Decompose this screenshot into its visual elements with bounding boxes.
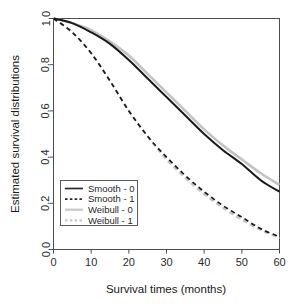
x-tick-label: 10: [85, 256, 97, 268]
y-tick-label: 0.6: [40, 103, 52, 118]
legend-label[interactable]: Weibull - 0: [88, 204, 133, 215]
legend-label[interactable]: Smooth - 0: [88, 183, 134, 194]
legend-label[interactable]: Smooth - 1: [88, 193, 134, 204]
legend-label[interactable]: Weibull - 1: [88, 215, 133, 226]
y-tick-label: 1.0: [40, 11, 52, 26]
curve-weibull-0: [54, 19, 280, 185]
y-tick-label: 0.8: [40, 57, 52, 72]
chart-legend[interactable]: Smooth - 0Smooth - 1Weibull - 0Weibull -…: [61, 181, 138, 226]
curve-smooth-0: [54, 19, 280, 192]
y-tick-label: 0.4: [40, 149, 52, 164]
y-tick-label: 0.2: [40, 196, 52, 211]
x-axis-ticks: 0102030405060: [50, 250, 285, 268]
y-axis-title: Estimated survival distributions: [9, 55, 21, 213]
x-tick-label: 20: [123, 256, 135, 268]
x-tick-label: 40: [198, 256, 210, 268]
x-tick-label: 50: [236, 256, 248, 268]
y-axis-ticks: 0.00.20.40.60.81.0: [40, 11, 54, 257]
x-tick-label: 60: [273, 256, 285, 268]
x-tick-label: 0: [50, 256, 56, 268]
x-axis-title: Survival times (months): [106, 283, 226, 295]
chart-figure: 0.00.20.40.60.81.0 0102030405060 Smooth …: [0, 0, 296, 305]
survival-plot: 0.00.20.40.60.81.0 0102030405060 Smooth …: [0, 0, 296, 305]
x-tick-label: 30: [160, 256, 172, 268]
